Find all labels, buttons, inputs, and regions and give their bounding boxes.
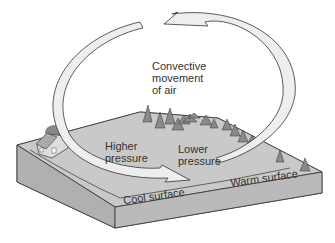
higher-pressure-label: Higher pressure <box>105 140 148 164</box>
lower-pressure-label: Lower pressure <box>178 143 221 167</box>
convection-diagram <box>0 0 335 243</box>
convective-movement-label: Convective movement of air <box>152 60 206 96</box>
